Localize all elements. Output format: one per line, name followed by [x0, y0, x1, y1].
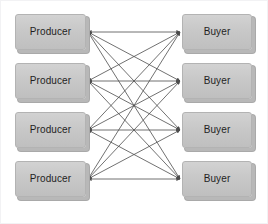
- producer-node-2[interactable]: Producer: [15, 63, 86, 99]
- producer-node-3[interactable]: Producer: [15, 112, 86, 148]
- producer-node-2-label: Producer: [30, 76, 71, 86]
- buyer-node-4[interactable]: Buyer: [182, 161, 252, 197]
- buyer-node-2-label: Buyer: [204, 76, 231, 86]
- producer-node-1[interactable]: Producer: [15, 14, 86, 50]
- edge-group: [88, 32, 180, 179]
- buyer-node-2[interactable]: Buyer: [182, 63, 252, 99]
- producer-node-4-label: Producer: [30, 174, 71, 184]
- buyer-node-1-label: Buyer: [204, 27, 231, 37]
- producer-node-3-label: Producer: [30, 125, 71, 135]
- buyer-node-3[interactable]: Buyer: [182, 112, 252, 148]
- producer-node-4[interactable]: Producer: [15, 161, 86, 197]
- diagram-canvas: Producer Producer Producer Producer Buye…: [0, 0, 268, 224]
- buyer-node-1[interactable]: Buyer: [182, 14, 252, 50]
- producer-node-1-label: Producer: [30, 27, 71, 37]
- buyer-node-4-label: Buyer: [204, 174, 231, 184]
- buyer-node-3-label: Buyer: [204, 125, 231, 135]
